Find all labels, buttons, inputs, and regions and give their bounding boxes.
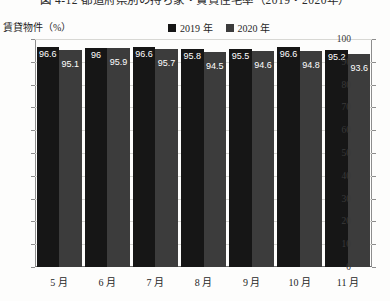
bar-2020: 93.6 bbox=[348, 54, 371, 267]
bar-2020: 94.8 bbox=[300, 51, 323, 267]
y-axis-label: 賃貸物件（%） bbox=[3, 19, 71, 34]
bar-value-label: 94.5 bbox=[206, 61, 224, 71]
bar-group: 9695.9 bbox=[85, 39, 130, 267]
y-axis-tick bbox=[31, 39, 35, 40]
y-axis-tick bbox=[31, 244, 35, 245]
bar-value-label: 95.9 bbox=[110, 57, 128, 67]
y-axis-tick-label: 70 bbox=[325, 102, 351, 112]
y-axis-tick-label: 10 bbox=[325, 239, 351, 249]
legend-item-2019: 2019 年 bbox=[168, 20, 213, 35]
y-axis-tick bbox=[31, 85, 35, 86]
bar-value-label: 96 bbox=[91, 50, 101, 60]
bar-group: 95.894.5 bbox=[181, 39, 226, 267]
chart-page: 図 4-12 都道府県別の持ち家・賃貸住宅率（2019・2020年） 賃貸物件（… bbox=[0, 0, 390, 301]
y-axis-tick-label: 20 bbox=[325, 216, 351, 226]
x-axis-tick-label: 6 月 bbox=[98, 274, 116, 289]
bar-2019: 96 bbox=[85, 48, 108, 267]
bar-value-label: 95.8 bbox=[183, 51, 201, 61]
y-axis-tick bbox=[372, 176, 376, 177]
y-axis-tick bbox=[31, 199, 35, 200]
y-axis-tick bbox=[372, 221, 376, 222]
bar-value-label: 96.6 bbox=[280, 49, 298, 59]
y-axis-tick-label: 100 bbox=[325, 34, 351, 44]
x-axis-tick-label: 5 月 bbox=[50, 274, 68, 289]
bar-value-label: 95.5 bbox=[232, 51, 250, 61]
bar-group: 96.695.1 bbox=[37, 39, 82, 267]
bar-2019: 96.6 bbox=[133, 47, 156, 267]
legend-label-2020: 2020 年 bbox=[238, 20, 271, 35]
bar-value-label: 95.1 bbox=[62, 59, 80, 69]
chart-legend: 2019 年 2020 年 bbox=[168, 20, 270, 35]
y-axis-tick bbox=[372, 39, 376, 40]
plot-area: 96.695.19695.996.695.795.894.595.594.696… bbox=[35, 39, 372, 267]
x-axis-tick-label: 7 月 bbox=[147, 274, 165, 289]
y-axis-tick-label: 50 bbox=[325, 148, 351, 158]
y-axis-tick bbox=[31, 107, 35, 108]
legend-label-2019: 2019 年 bbox=[180, 20, 213, 35]
y-axis-tick-label: 30 bbox=[325, 194, 351, 204]
y-axis-tick bbox=[31, 176, 35, 177]
y-axis-tick bbox=[372, 85, 376, 86]
y-axis-tick bbox=[372, 153, 376, 154]
legend-swatch-2019 bbox=[168, 24, 176, 32]
y-axis-tick bbox=[31, 62, 35, 63]
y-axis-tick bbox=[31, 221, 35, 222]
y-axis-tick bbox=[372, 267, 376, 268]
y-axis-tick bbox=[31, 267, 35, 268]
y-axis-tick-label: 80 bbox=[325, 80, 351, 90]
bar-group: 95.594.6 bbox=[229, 39, 274, 267]
x-axis-tick-label: 9 月 bbox=[243, 274, 261, 289]
bar-2019: 96.6 bbox=[37, 47, 60, 267]
legend-item-2020: 2020 年 bbox=[226, 20, 271, 35]
y-axis-tick-label: 90 bbox=[325, 57, 351, 67]
y-axis-tick-label: 40 bbox=[325, 171, 351, 181]
y-axis-tick bbox=[372, 107, 376, 108]
y-axis-tick bbox=[31, 153, 35, 154]
bar-value-label: 96.6 bbox=[135, 49, 153, 59]
bar-2020: 95.9 bbox=[107, 48, 130, 267]
bar-2019: 95.5 bbox=[229, 49, 252, 267]
bar-value-label: 96.6 bbox=[39, 49, 57, 59]
bar-group: 96.694.8 bbox=[277, 39, 322, 267]
x-axis-tick-label: 10 月 bbox=[289, 274, 312, 289]
bar-2020: 94.5 bbox=[204, 52, 227, 267]
legend-swatch-2020 bbox=[226, 24, 234, 32]
bar-2020: 95.1 bbox=[59, 50, 82, 267]
bar-value-label: 93.6 bbox=[350, 63, 368, 73]
y-axis-tick bbox=[372, 130, 376, 131]
bar-value-label: 94.8 bbox=[302, 60, 320, 70]
bar-2019: 95.8 bbox=[181, 49, 204, 267]
x-axis-tick-label: 11 月 bbox=[337, 274, 359, 289]
figure-title: 図 4-12 都道府県別の持ち家・賃貸住宅率（2019・2020年） bbox=[40, 0, 350, 7]
y-axis-tick-label: 0 bbox=[325, 262, 351, 272]
x-axis-tick-label: 8 月 bbox=[195, 274, 213, 289]
bar-value-label: 95.7 bbox=[158, 58, 176, 68]
y-axis-tick-label: 60 bbox=[325, 125, 351, 135]
bar-2020: 94.6 bbox=[252, 51, 275, 267]
bar-2019: 96.6 bbox=[277, 47, 300, 267]
bar-value-label: 94.6 bbox=[254, 60, 272, 70]
y-axis-tick bbox=[31, 130, 35, 131]
bar-group: 96.695.7 bbox=[133, 39, 178, 267]
bar-2020: 95.7 bbox=[155, 49, 178, 267]
y-axis-tick bbox=[372, 199, 376, 200]
y-axis-tick bbox=[372, 62, 376, 63]
figure-title-strip: 図 4-12 都道府県別の持ち家・賃貸住宅率（2019・2020年） bbox=[0, 0, 390, 9]
y-axis-tick bbox=[372, 244, 376, 245]
